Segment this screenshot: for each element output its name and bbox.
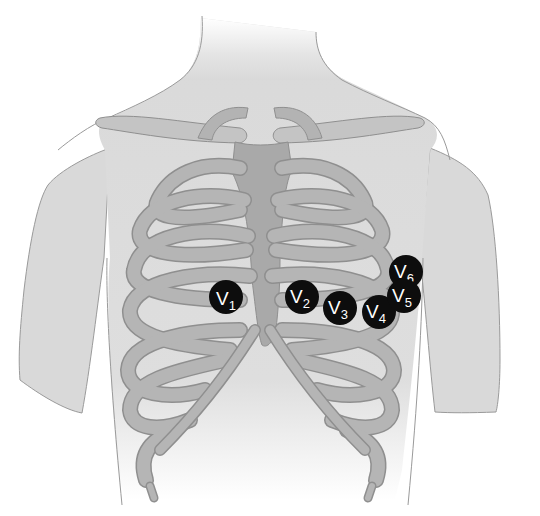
electrode-v2: V2 (285, 280, 319, 314)
electrode-v1-subscript: 1 (229, 298, 236, 313)
electrode-v4-letter: V (366, 301, 379, 322)
right-arm (420, 148, 500, 413)
electrode-v4-subscript: 4 (379, 311, 386, 326)
electrode-v2-letter: V (290, 286, 303, 307)
electrode-v2-subscript: 2 (303, 296, 310, 311)
ecg-lead-placement-diagram: V1 V2 V3 V4 V6 V5 (0, 0, 540, 516)
electrode-v5-letter: V (392, 285, 405, 306)
electrode-v5-subscript: 5 (405, 295, 412, 310)
electrode-v1-letter: V (216, 288, 229, 309)
electrode-v3-letter: V (328, 297, 341, 318)
electrode-v1: V1 (209, 280, 243, 314)
left-arm (19, 148, 110, 413)
electrode-v5: V5 (387, 279, 421, 313)
electrode-v3: V3 (323, 291, 357, 325)
electrode-v6-letter: V (394, 261, 407, 282)
electrode-v3-subscript: 3 (341, 307, 348, 322)
